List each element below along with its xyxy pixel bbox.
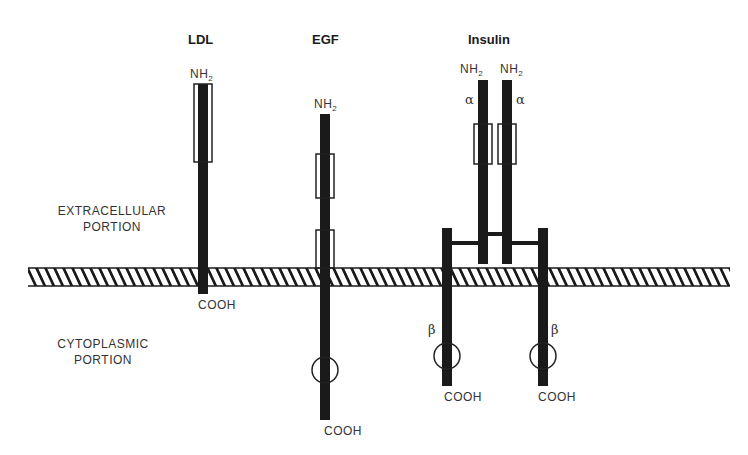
insulin-receptor [434,80,556,386]
insulin-alpha2-nh2-label: NH2 [500,62,523,78]
egf-receptor [312,114,338,420]
egf-title: EGF [312,32,339,47]
ldl-nh2-label: NH2 [190,67,213,83]
beta-label-1: β [428,322,436,337]
beta-label-2: β [551,322,559,337]
cytoplasmic-line1: CYTOPLASMIC [48,336,158,352]
cytoplasmic-line2: PORTION [48,352,158,368]
ldl-receptor [194,84,212,294]
cell-membrane [28,268,730,286]
insulin-title: Insulin [468,32,510,47]
insulin-alpha1-nh2-label: NH2 [460,62,483,78]
extracellular-region-label: EXTRACELLULAR PORTION [52,203,172,235]
extracellular-line1: EXTRACELLULAR [52,203,172,219]
insulin-beta2-cooh-label: COOH [538,390,576,404]
alpha-label-1: α [465,92,474,107]
ldl-title: LDL [188,32,213,47]
cytoplasmic-region-label: CYTOPLASMIC PORTION [48,336,158,368]
insulin-beta1-cooh-label: COOH [444,390,482,404]
extracellular-line2: PORTION [52,219,172,235]
egf-nh2-label: NH2 [314,97,337,113]
alpha-label-2: α [516,92,525,107]
egf-cooh-label: COOH [324,424,362,438]
ldl-cooh-label: COOH [198,298,236,312]
